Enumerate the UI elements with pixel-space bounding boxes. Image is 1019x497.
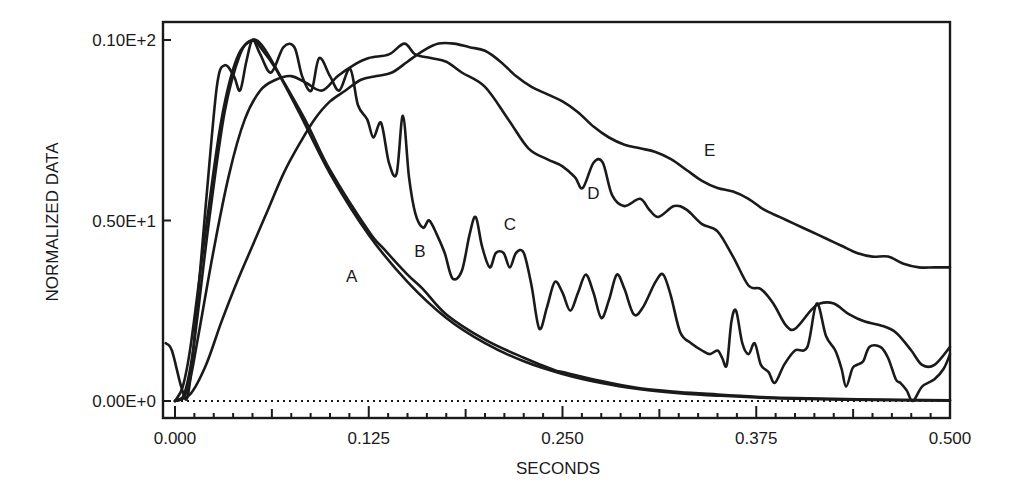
series-label-c: C [504, 215, 516, 234]
x-tick-label: 0.250 [541, 429, 584, 448]
y-tick-label: 0.10E+2 [92, 31, 156, 50]
x-axis-ticks: 0.0000.1250.2500.3750.500 [154, 406, 972, 448]
y-tick-label: 0.50E+1 [92, 212, 156, 231]
series-label-a: A [346, 267, 358, 286]
plot-frame [163, 22, 950, 418]
series-label-d: D [587, 184, 599, 203]
y-axis-ticks: 0.00E+00.50E+10.10E+2 [92, 31, 171, 411]
x-tick-label: 0.500 [929, 429, 972, 448]
plot-border [163, 22, 950, 418]
x-tick-label: 0.125 [347, 429, 390, 448]
y-axis-title: NORMALIZED DATA [43, 142, 62, 302]
x-tick-label: 0.375 [735, 429, 778, 448]
series-label-e: E [704, 141, 715, 160]
x-tick-label: 0.000 [154, 429, 197, 448]
series-labels: ABCDE [346, 141, 715, 286]
y-tick-label: 0.00E+0 [92, 392, 156, 411]
data-curves [166, 40, 950, 401]
chart: 0.0000.1250.2500.3750.500 0.00E+00.50E+1… [0, 0, 1019, 497]
curve-c [166, 40, 950, 401]
series-label-b: B [414, 242, 425, 261]
x-axis-title: SECONDS [516, 459, 600, 478]
